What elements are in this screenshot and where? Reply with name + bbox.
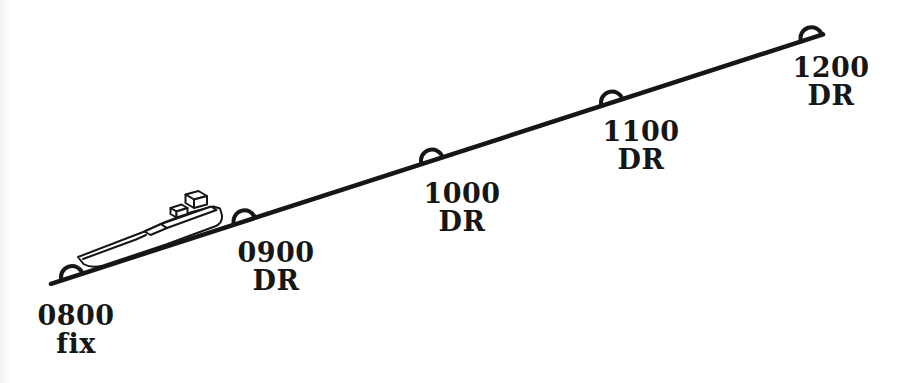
dr-plot-canvas — [0, 0, 902, 383]
dr-track-line — [51, 34, 823, 283]
ship-icon — [78, 191, 222, 267]
dr-plot-figure: 0800fix0900DR1000DR1100DR1200DR — [0, 0, 902, 383]
